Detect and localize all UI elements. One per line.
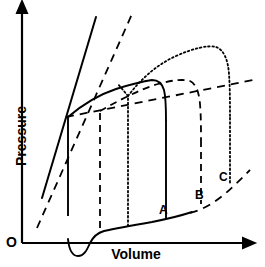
curve-label-a: A: [159, 203, 168, 217]
steep-line-solid: [42, 17, 96, 198]
curve-label-c: C: [219, 170, 228, 184]
loop-b-curve: [100, 80, 201, 228]
axis-group: [22, 12, 244, 243]
pv-diagram-canvas: [0, 0, 265, 267]
pressure-axis-label: Pressure: [13, 96, 29, 176]
steep-dashed-line: [37, 14, 132, 228]
steep-line-dashed: [37, 14, 132, 228]
pressure-volume-figure: Pressure Volume O A B C: [0, 0, 265, 267]
curve-label-b: B: [195, 188, 204, 202]
volume-axis-label: Volume: [96, 246, 176, 262]
loop-c-curve: [128, 46, 230, 226]
steep-solid-line: [42, 17, 96, 198]
origin-label: O: [6, 234, 17, 250]
